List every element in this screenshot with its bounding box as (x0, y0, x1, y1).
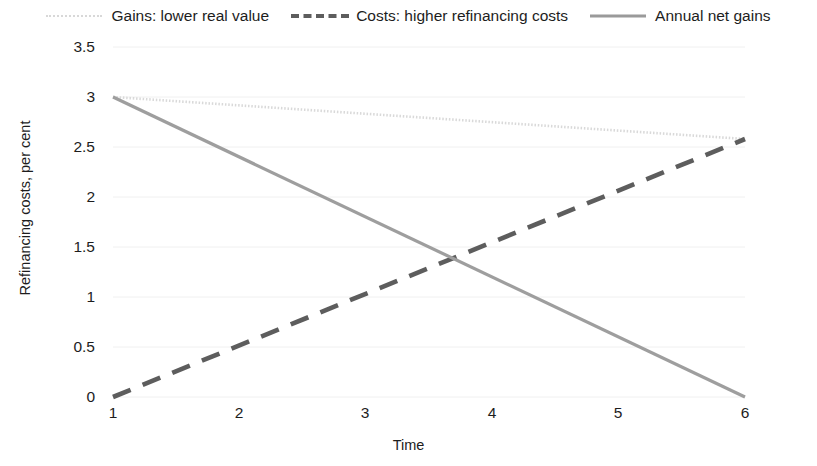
x-axis-title: Time (0, 437, 817, 453)
x-tick-4: 4 (472, 404, 512, 422)
x-tick-2: 2 (219, 404, 259, 422)
series-line-costs (113, 139, 745, 397)
chart-container: Gains: lower real value Costs: higher re… (0, 0, 817, 466)
x-tick-1: 1 (93, 404, 133, 422)
x-tick-6: 6 (725, 404, 765, 422)
x-tick-3: 3 (345, 404, 385, 422)
x-tick-5: 5 (598, 404, 638, 422)
x-axis-tick-labels: 1 2 3 4 5 6 (0, 404, 817, 428)
gridlines (113, 47, 745, 397)
series-line-gains (113, 97, 745, 139)
plot-area (0, 0, 817, 466)
